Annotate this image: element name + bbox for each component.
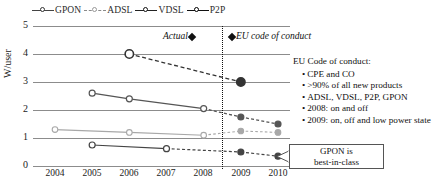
data-point-p2p-2009[interactable] bbox=[238, 149, 244, 155]
series-line-p2p bbox=[167, 149, 241, 152]
series-line-gpon bbox=[241, 117, 278, 124]
eu-bullet-4-text: 2008: on and off bbox=[307, 103, 368, 113]
eu-bullet-4: •2008: on and off bbox=[302, 103, 437, 115]
eu-bullet-5-text: 2009: on, off and low power state bbox=[307, 115, 431, 125]
bullet-dot-icon: • bbox=[302, 92, 305, 102]
series-line-gpon bbox=[92, 93, 129, 99]
data-point-gpon-2008[interactable] bbox=[201, 106, 207, 112]
data-point-adsl-2006[interactable] bbox=[125, 50, 133, 58]
eu-bullet-2: •>90% of all new products bbox=[302, 80, 437, 92]
series-line-gpon bbox=[204, 109, 241, 117]
series-line-gpon bbox=[129, 99, 203, 109]
bullet-dot-icon: • bbox=[302, 69, 305, 79]
eu-bullet-1-text: CPE and CO bbox=[307, 69, 354, 79]
eu-panel-heading: EU Code of conduct: bbox=[293, 56, 437, 68]
callout-box: GPON is best-in-class bbox=[289, 144, 384, 169]
eu-bullet-2-text: >90% of all new products bbox=[307, 80, 402, 90]
series-line-adsl bbox=[129, 54, 241, 82]
series-line-p2p bbox=[92, 145, 166, 149]
series-line-p2p bbox=[241, 152, 278, 156]
gpon-callout: GPON is best-in-class bbox=[277, 144, 385, 170]
eu-bullet-3-text: ADSL, VDSL, P2P, GPON bbox=[307, 92, 407, 102]
data-point-vdsl-2004[interactable] bbox=[52, 127, 58, 133]
data-point-gpon-2009[interactable] bbox=[238, 114, 244, 120]
eu-bullet-3: •ADSL, VDSL, P2P, GPON bbox=[302, 92, 437, 104]
bullet-dot-icon: • bbox=[302, 103, 305, 113]
data-point-p2p-2007[interactable] bbox=[164, 146, 170, 152]
eu-bullet-5: •2009: on, off and low power state bbox=[302, 115, 437, 127]
chart-figure: GPON ADSL VDSL P2P W/user bbox=[0, 0, 437, 188]
data-point-vdsl-2006[interactable] bbox=[127, 130, 133, 136]
data-point-p2p-2005[interactable] bbox=[89, 142, 95, 148]
series-line-vdsl bbox=[241, 131, 278, 132]
callout-line-2: best-in-class bbox=[314, 157, 359, 168]
bullet-dot-icon: • bbox=[302, 115, 305, 125]
data-point-adsl-2009[interactable] bbox=[237, 78, 245, 86]
callout-line-1: GPON is bbox=[320, 146, 353, 157]
data-point-gpon-2006[interactable] bbox=[126, 96, 132, 102]
data-point-gpon-2010[interactable] bbox=[275, 121, 281, 127]
bullet-dot-icon: • bbox=[302, 80, 305, 90]
series-line-vdsl bbox=[55, 130, 129, 133]
data-point-vdsl-2010[interactable] bbox=[275, 130, 281, 136]
series-line-vdsl bbox=[129, 132, 203, 135]
data-point-gpon-2005[interactable] bbox=[89, 90, 95, 96]
eu-code-of-conduct-panel: EU Code of conduct: •CPE and CO •>90% of… bbox=[293, 56, 437, 127]
series-line-vdsl bbox=[204, 131, 241, 135]
eu-panel-bullet-list: •CPE and CO •>90% of all new products •A… bbox=[293, 69, 437, 127]
eu-bullet-1: •CPE and CO bbox=[302, 69, 437, 81]
data-point-vdsl-2009[interactable] bbox=[238, 128, 244, 134]
data-point-vdsl-2008[interactable] bbox=[201, 132, 207, 138]
